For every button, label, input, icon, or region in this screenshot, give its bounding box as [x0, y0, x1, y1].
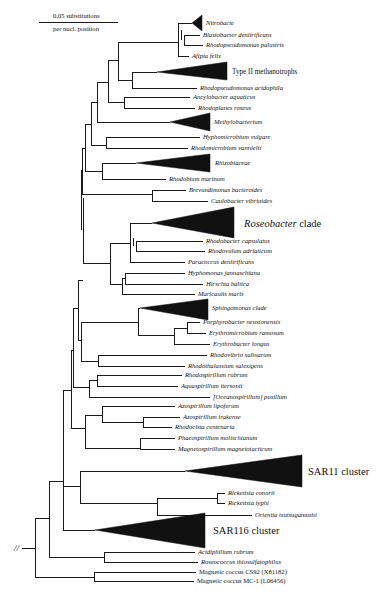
taxon-label: Rickettsia conorii	[227, 489, 275, 496]
taxon-label: Rhodovulum adriaticum	[207, 247, 272, 254]
scale-bar-label-top: 0.05 substitutions	[53, 12, 100, 19]
taxon-label: Hyphomicrobium vulgare	[202, 133, 271, 140]
label-sphingomonas-clade: Sphingomonas clade	[212, 304, 267, 311]
taxon-label: Magnetic coccus CS92 (X81182)	[199, 568, 287, 576]
clade-triangle-rhizobiaceae	[136, 154, 210, 172]
label-roseobacter-clade: Roseobacter clade	[243, 218, 322, 229]
taxon-label: Rhodopseudomonas palustris	[205, 41, 284, 48]
taxon-label: Rhodobium marinum	[168, 175, 225, 182]
label-type2-methanotrophs: Type II methanotrophs	[232, 68, 298, 76]
taxon-label: Afipia felis	[191, 52, 221, 59]
taxon-label: Roseococcus thiosulfatophilus	[200, 558, 281, 565]
taxon-label: Aquaspirillum itersonii	[180, 382, 243, 389]
scale-bar-label-bottom: per nucl. position	[53, 25, 100, 32]
taxon-label: Rhodocista centenaria	[174, 423, 235, 430]
taxon-label: Rickettsia typhi	[227, 499, 269, 506]
taxon-label: Brevundimonas bacteroides	[189, 186, 263, 193]
taxon-label: Rhodobacter capsulatus	[205, 237, 270, 244]
taxon-label: Magnetic coccus MC-1 (L06456)	[197, 577, 285, 585]
taxon-label: Ancylobacter aquaticus	[192, 93, 256, 100]
label-sar116-cluster: SAR116 cluster	[213, 525, 280, 536]
scale-bar: 0.05 substitutions per nucl. position	[39, 12, 118, 32]
taxon-label: Magnetospirillum magnetotacticum	[177, 445, 273, 452]
taxon-label: Rhodopseudomonas acidophila	[199, 84, 284, 91]
taxon-label: Azospirillum lipoferum	[177, 402, 239, 409]
taxon-label: Maricaulis maris	[197, 290, 244, 297]
label-rhizobiaceae: Rhizobiaceae	[214, 159, 251, 166]
taxon-label: Rhodoplanes roseus	[197, 104, 251, 111]
taxon-label: Erythrobacter longus	[212, 340, 270, 347]
phylogenetic-tree: 0.05 substitutions per nucl. position	[0, 0, 386, 603]
taxon-label: Rhodothalassium salexigens	[187, 362, 263, 369]
clade-triangle-roseobacter	[152, 207, 234, 238]
clade-triangle-sphingomonas	[140, 299, 208, 320]
taxon-label: Erythromicrobium ramosum	[208, 329, 284, 336]
taxon-label: Blastobacter denitrificans	[203, 31, 272, 38]
taxon-label: [Oceanospirillum] pusillum	[213, 393, 287, 401]
clade-triangle-sar11	[185, 455, 302, 487]
taxon-label: Hirschia baltica	[205, 280, 250, 287]
taxon-label: Rhodospirillum rubrum	[184, 371, 248, 378]
taxon-label: Azospirillum irakense	[182, 413, 241, 420]
taxon-label: Porphyrobacter neustonensis	[202, 318, 281, 325]
taxon-label: Rhodovibrio salinarum	[209, 351, 272, 358]
taxon-label: Paracoccus denitrificans	[187, 258, 255, 265]
root-break-symbol: //	[13, 543, 21, 553]
label-methylobacterium: Methylobacterium	[213, 118, 263, 125]
label-sar11-cluster: SAR11 cluster	[308, 466, 370, 477]
taxon-label: Caulobacter vibrioides	[211, 197, 272, 204]
clade-triangle-methylobacterium	[170, 113, 210, 131]
label-nitrobacte: Nitrobacte	[205, 19, 234, 26]
taxon-label: Hyphomonas jannaschiana	[187, 269, 261, 276]
taxon-label: Orientia tsutsugamushi	[255, 511, 317, 518]
clade-triangle-nitrobacte	[192, 15, 202, 31]
taxon-label: Acidiphilium rubrum	[197, 548, 254, 555]
clade-triangle-sar116	[95, 513, 205, 548]
clade-triangle-type2	[157, 62, 227, 80]
taxon-label: Rhodomicrobium vannielii	[190, 144, 261, 151]
taxon-label: Phaeospirillum molischianum	[177, 434, 258, 441]
